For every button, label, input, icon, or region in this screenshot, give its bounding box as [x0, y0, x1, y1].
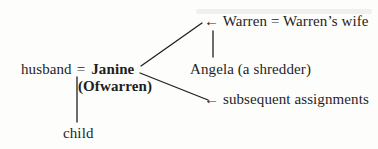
husband-label: husband [21, 61, 72, 77]
equals-sign: = [77, 61, 86, 77]
kinship-diagram: husband=Janine (Ofwarren) child ← Warren… [0, 0, 378, 149]
warren-couple-label: ← Warren = Warren’s wife [204, 13, 369, 30]
husband-janine-union: husband=Janine [21, 61, 134, 78]
handmaid-name: Janine [91, 61, 134, 77]
handmaid-patronym: (Ofwarren) [78, 78, 152, 95]
edge-janine-warren-couple [141, 23, 202, 66]
subsequent-assignments-label: ← subsequent assignments [204, 91, 369, 108]
angela-label: Angela (a shredder) [190, 61, 311, 78]
child-label: child [63, 125, 94, 142]
